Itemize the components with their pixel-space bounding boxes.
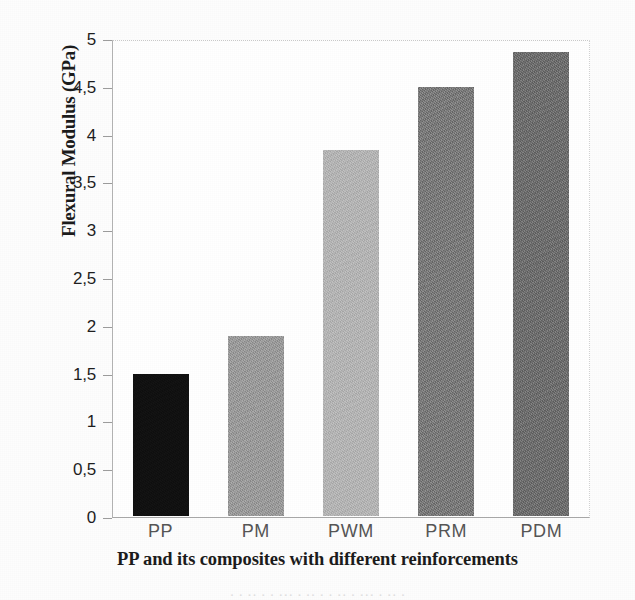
y-axis-tick-mark	[103, 327, 112, 328]
y-axis-tick-mark	[103, 279, 112, 280]
bar-group	[114, 41, 588, 516]
y-axis-tick-mark	[103, 375, 112, 376]
y-axis-tick-mark	[103, 88, 112, 89]
x-axis-tick-label-prm: PRM	[399, 521, 494, 542]
y-axis-tick-label: 0	[44, 508, 96, 528]
bar-pdm	[513, 52, 569, 516]
y-axis-tick-label: 1,5	[44, 365, 96, 385]
x-axis-tick-label-pp: PP	[113, 521, 208, 542]
y-axis-tick-label: 2	[44, 317, 96, 337]
y-axis-tick-label: 5	[44, 30, 96, 50]
x-axis-tick-label-pdm: PDM	[494, 521, 589, 542]
plot-area	[112, 40, 590, 518]
bar-slot	[493, 41, 588, 516]
y-axis-tick-label: 4,5	[44, 78, 96, 98]
bar-slot	[209, 41, 304, 516]
bar-prm	[418, 87, 474, 516]
y-axis-tick-mark	[103, 40, 112, 41]
bar-chart-figure: Flexural Modulus (GPa) 54,543,532,521,51…	[0, 0, 635, 600]
bar-slot	[304, 41, 399, 516]
bar-slot	[114, 41, 209, 516]
y-axis-tick-mark	[103, 231, 112, 232]
x-axis-tick-label-pm: PM	[208, 521, 303, 542]
x-axis-title: PP and its composites with different rei…	[0, 549, 635, 570]
y-axis-tick-label: 1	[44, 412, 96, 432]
y-axis-tick-label: 2,5	[44, 269, 96, 289]
caption-remnant: · · ·· · · ··· · ·· · · ·· · ··· · ·· ·	[0, 588, 635, 599]
y-axis-tick-mark	[103, 422, 112, 423]
y-axis-tick-label: 3	[44, 221, 96, 241]
bar-pm	[228, 336, 284, 516]
bar-pwm	[323, 150, 379, 516]
y-axis-tick-labels: 54,543,532,521,510,50	[44, 40, 96, 518]
x-axis-tick-label-pwm: PWM	[303, 521, 398, 542]
y-axis-tick-mark	[103, 518, 112, 519]
bar-slot	[398, 41, 493, 516]
y-axis-tick-label: 3,5	[44, 173, 96, 193]
y-axis-tick-label: 0,5	[44, 460, 96, 480]
y-axis-tick-mark	[103, 183, 112, 184]
y-axis-tick-label: 4	[44, 126, 96, 146]
y-axis-tick-marks	[103, 40, 112, 518]
y-axis-tick-mark	[103, 470, 112, 471]
y-axis-tick-mark	[103, 136, 112, 137]
x-axis-tick-labels: PPPMPWMPRMPDM	[113, 521, 589, 542]
bar-pp	[133, 374, 189, 516]
